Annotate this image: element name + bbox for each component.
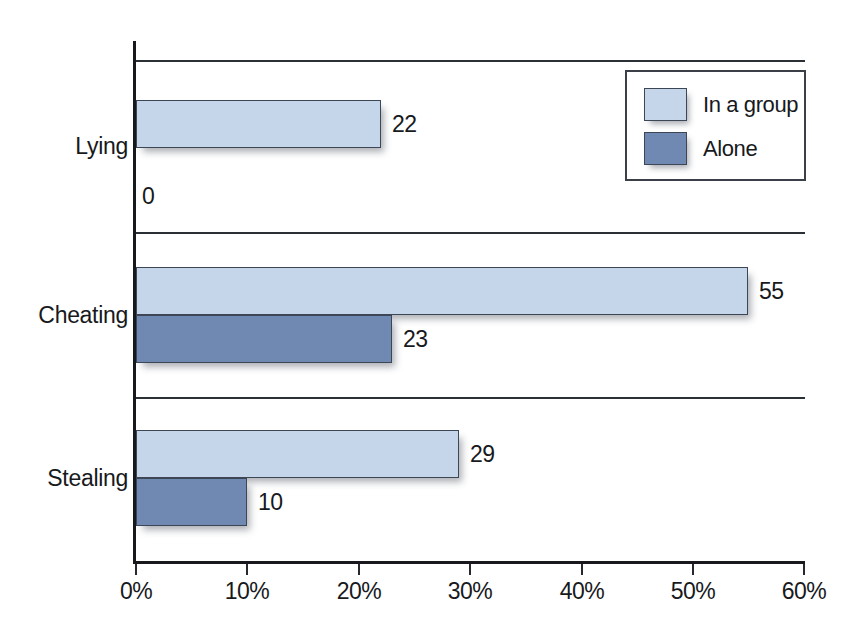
- bar-stealing-alone: [136, 478, 247, 526]
- bar-value-stealing-alone: 10: [258, 489, 283, 516]
- category-label-cheating: Cheating: [0, 302, 128, 329]
- x-tick-label-40: 40%: [537, 578, 627, 605]
- x-tick-20: [358, 564, 360, 575]
- legend-label-alone: Alone: [703, 136, 757, 162]
- category-label-stealing: Stealing: [0, 465, 128, 492]
- x-tick-40: [581, 564, 583, 575]
- bar-value-cheating-in-a-group: 55: [759, 278, 784, 305]
- x-tick-0: [135, 564, 137, 575]
- x-tick-60: [803, 564, 805, 575]
- x-tick-label-60: 60%: [759, 578, 849, 605]
- legend-item-in-a-group: In a group: [644, 88, 798, 121]
- legend-label-in-a-group: In a group: [703, 92, 798, 118]
- x-tick-10: [246, 564, 248, 575]
- bar-cheating-alone: [136, 315, 392, 363]
- x-tick-30: [469, 564, 471, 575]
- category-label-lying: Lying: [0, 133, 128, 160]
- bar-value-lying-alone: 0: [142, 183, 154, 210]
- legend: In a group Alone: [625, 70, 806, 181]
- x-tick-label-30: 30%: [425, 578, 515, 605]
- bar-value-lying-in-a-group: 22: [392, 111, 417, 138]
- x-tick-label-20: 20%: [314, 578, 404, 605]
- bar-value-cheating-alone: 23: [403, 326, 428, 353]
- bar-stealing-in-a-group: [136, 430, 459, 478]
- gridline-lying-cheating: [136, 232, 805, 234]
- legend-swatch-alone: [644, 132, 687, 165]
- gridline-top: [136, 60, 805, 62]
- x-tick-label-10: 10%: [202, 578, 292, 605]
- legend-item-alone: Alone: [644, 132, 757, 165]
- bar-chart: 0% 10% 20% 30% 40% 50% 60% Lying Cheatin…: [0, 0, 857, 635]
- gridline-cheating-stealing: [136, 397, 805, 399]
- x-tick-50: [692, 564, 694, 575]
- bar-cheating-in-a-group: [136, 267, 748, 315]
- x-tick-label-0: 0%: [91, 578, 181, 605]
- legend-swatch-in-a-group: [644, 88, 687, 121]
- bar-value-stealing-in-a-group: 29: [470, 441, 495, 468]
- bar-lying-in-a-group: [136, 100, 381, 148]
- x-tick-label-50: 50%: [648, 578, 738, 605]
